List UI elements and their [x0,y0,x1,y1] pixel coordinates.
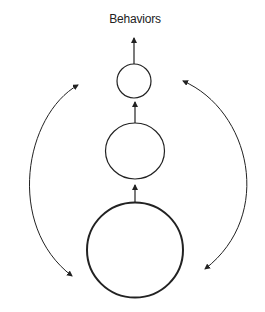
right-curved-arrow [183,81,247,269]
large-circle [87,203,183,298]
diagram-canvas [0,0,265,312]
medium-circle [106,123,165,179]
left-curved-arrow [29,85,78,276]
small-circle [117,64,151,98]
